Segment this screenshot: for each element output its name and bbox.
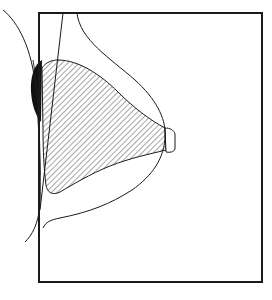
- chest-wall-contour: [3, 10, 40, 242]
- nipple: [165, 128, 175, 152]
- diagram-canvas: [0, 0, 272, 300]
- breast-diagram: [0, 0, 272, 300]
- glandular-tissue: [42, 60, 166, 194]
